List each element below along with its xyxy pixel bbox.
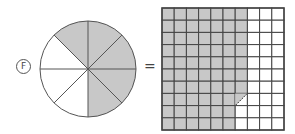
fraction-circle: [40, 21, 136, 117]
diagram: [0, 0, 295, 134]
hundred-grid: [162, 8, 284, 130]
